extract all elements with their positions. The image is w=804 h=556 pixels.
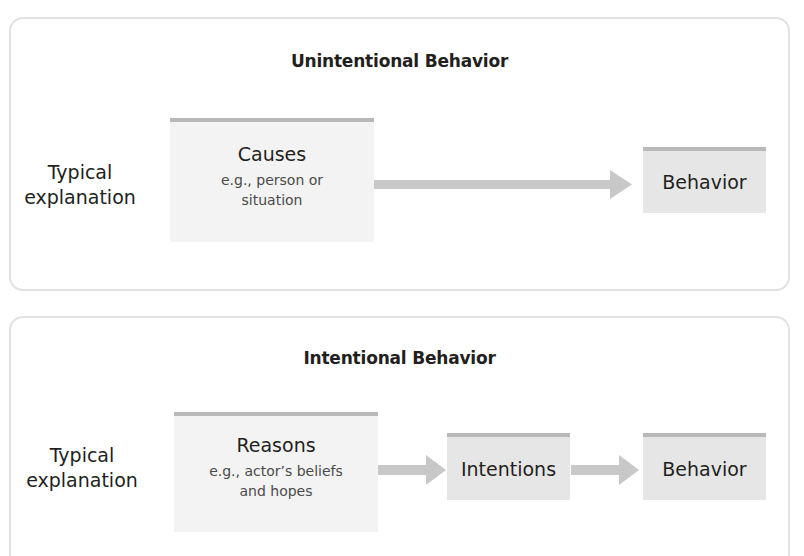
causes-heading: Causes	[238, 142, 306, 166]
causes-example-line: situation	[221, 190, 323, 210]
reasons-example: e.g., actor’s beliefs and hopes	[209, 461, 343, 501]
arrow-right-icon	[374, 169, 632, 199]
panel-title: Intentional Behavior	[11, 348, 788, 368]
arrow-right-icon	[378, 455, 446, 485]
intentions-label: Intentions	[461, 458, 556, 480]
causes-box: Causes e.g., person or situation	[170, 118, 374, 242]
behavior-box: Behavior	[643, 147, 766, 213]
behavior-label: Behavior	[662, 458, 746, 480]
behavior-box: Behavior	[643, 433, 766, 500]
row-label-line: explanation	[12, 468, 152, 493]
diagram-canvas: Unintentional Behavior Typical explanati…	[0, 0, 804, 556]
unintentional-behavior-panel: Unintentional Behavior Typical explanati…	[9, 17, 790, 291]
typical-explanation-label: Typical explanation	[12, 443, 152, 493]
reasons-box: Reasons e.g., actor’s beliefs and hopes	[174, 412, 378, 532]
reasons-heading: Reasons	[236, 433, 315, 457]
row-label-line: Typical	[12, 443, 152, 468]
intentional-behavior-panel: Intentional Behavior Typical explanation…	[9, 316, 790, 556]
row-label-line: explanation	[10, 185, 150, 210]
row-label-line: Typical	[10, 160, 150, 185]
reasons-example-line: e.g., actor’s beliefs	[209, 461, 343, 481]
causes-example-line: e.g., person or	[221, 170, 323, 190]
typical-explanation-label: Typical explanation	[10, 160, 150, 210]
arrow-right-icon	[571, 455, 639, 485]
panel-title: Unintentional Behavior	[11, 51, 788, 71]
reasons-example-line: and hopes	[209, 481, 343, 501]
behavior-label: Behavior	[662, 171, 746, 193]
causes-example: e.g., person or situation	[221, 170, 323, 210]
intentions-box: Intentions	[447, 433, 570, 500]
